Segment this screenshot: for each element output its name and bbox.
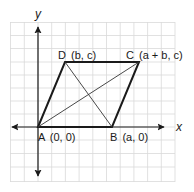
- parallelogram-diagram: y x A (0, 0) B (a, 0) C (a + b, c) D (b,…: [0, 0, 194, 192]
- vertex-label-c: C (a + b, c): [126, 49, 183, 61]
- vertex-a-name: A: [38, 131, 46, 143]
- vertex-c-name: C: [126, 49, 134, 61]
- x-axis-label: x: [175, 120, 183, 134]
- vertex-label-d: D (b, c): [58, 49, 96, 61]
- vertex-b-coords: (a, 0): [122, 131, 148, 143]
- diagonal-bd: [65, 62, 112, 127]
- vertex-c-coords: (a + b, c): [139, 49, 183, 61]
- vertex-b-name: B: [110, 131, 117, 143]
- vertex-a-coords: (0, 0): [50, 131, 76, 143]
- vertex-label-a: A (0, 0): [38, 131, 75, 143]
- y-axis-label: y: [34, 7, 42, 21]
- vertex-d-coords: (b, c): [71, 49, 96, 61]
- vertex-label-b: B (a, 0): [110, 131, 148, 143]
- vertex-d-name: D: [58, 49, 66, 61]
- grid: [10, 22, 175, 182]
